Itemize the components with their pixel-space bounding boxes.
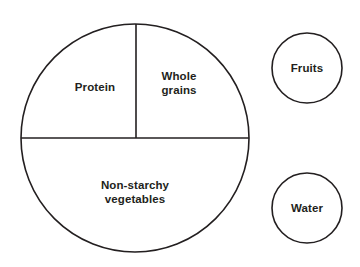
whole-grains-segment-label: Whole grains [143,69,215,97]
fruits-circle-label: Fruits [272,61,342,75]
non-starchy-vegetables-segment-label: Non-starchy vegetables [60,178,210,206]
plate-method-diagram [0,0,360,267]
diagram-canvas: Protein Whole grains Non-starchy vegetab… [0,0,360,267]
water-circle-label: Water [272,201,342,215]
protein-segment-label: Protein [45,80,145,94]
